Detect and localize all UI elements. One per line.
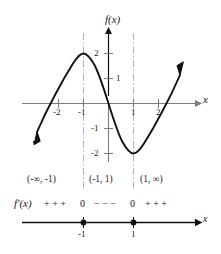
signchart-point-neg1 [81,220,87,226]
x-tick-label-pos1: 1 [131,107,136,117]
x-tick-label-pos2: 2 [156,107,161,117]
y-tick-label-pos2: 2 [94,48,99,58]
signchart-point-pos1 [131,220,137,226]
signchart-function-label: f'(x) [14,197,32,209]
signchart-segment-positive-right: + + + [145,198,167,209]
signchart-zero-pos1: 0 [130,198,135,209]
signchart-axis-label: x [203,213,207,224]
signchart-critical-label-pos1: 1 [131,229,136,239]
signchart-zero-neg1: 0 [80,198,85,209]
figure-cubic-with-sign-chart: f(x) x -2 -1 1 2 2 1 -1 -2 (-∞, -1) (-1,… [0,0,221,254]
y-tick-label-pos1: 1 [116,73,121,83]
signchart-segment-positive-left: + + + [44,198,66,209]
interval-label-right: (1, ∞) [140,174,163,184]
interval-label-left: (-∞, -1) [27,174,56,184]
curve-arrow-up-right [177,62,183,75]
x-tick-label-neg1: -1 [78,107,86,117]
y-axis-label: f(x) [105,13,120,25]
signchart-critical-label-neg1: -1 [78,229,86,239]
x-axis-label: x [203,93,208,105]
signchart-segment-negative-middle: − − − [94,198,116,209]
interval-label-middle: (-1, 1) [89,174,113,184]
graph-canvas [0,0,221,254]
y-tick-label-neg2: -2 [91,148,99,158]
y-tick-label-neg1: -1 [91,123,99,133]
curve-arrow-down-left [34,132,40,145]
x-tick-label-neg2: -2 [53,107,61,117]
